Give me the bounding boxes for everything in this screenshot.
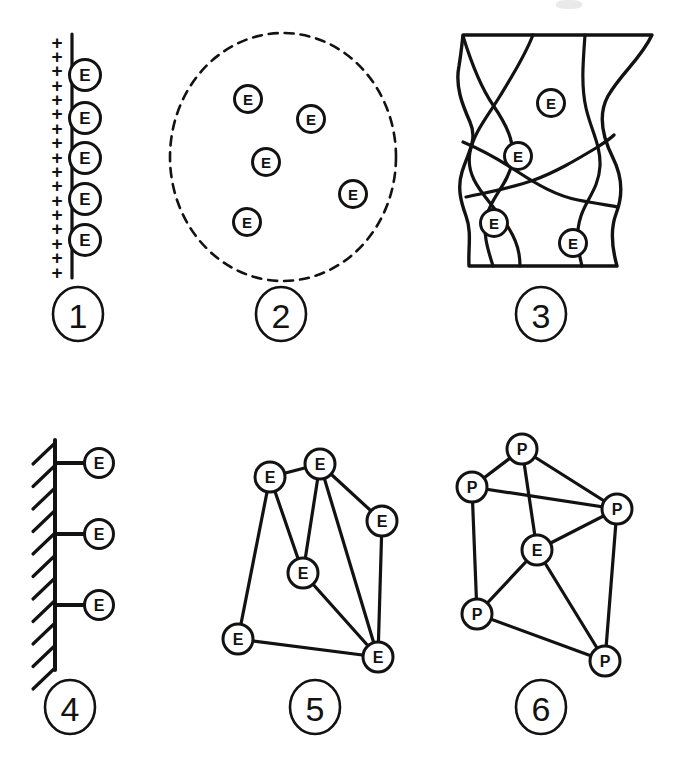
panel-3-grain-domains: EEEE 3	[430, 0, 676, 360]
electron-node: E	[70, 184, 101, 215]
node-label: P	[600, 653, 611, 670]
wall-hatch-stroke	[33, 466, 55, 487]
electron-node: E	[340, 181, 367, 208]
wall-hatch-stroke	[33, 578, 55, 599]
positive-charge-column: +++++++++++++++++	[51, 32, 62, 283]
tethered-electron-group: EEE	[85, 449, 114, 620]
electron-node: E	[70, 60, 101, 91]
node-label: P	[467, 479, 478, 496]
node-label: E	[79, 109, 90, 128]
panel-number-4: 4	[45, 680, 95, 734]
panel-number-3-text: 3	[532, 297, 551, 335]
proton-node: P	[462, 599, 492, 629]
node-label: E	[261, 154, 271, 171]
panel-number-2: 2	[256, 287, 306, 341]
node-label: E	[94, 526, 105, 543]
free-electron-group: EEEEE	[234, 86, 367, 236]
figure-root: +++++++++++++++++ EEEEE 1 EEEEE 2 EEEE	[0, 0, 676, 782]
network-edge	[477, 614, 605, 661]
electron-node: E	[560, 230, 587, 257]
wall-hatch-stroke	[33, 533, 55, 554]
node-label: E	[532, 542, 543, 559]
panel-2-free-electron-gas: EEEEE 2	[150, 0, 440, 360]
panel-number-6-text: 6	[532, 690, 551, 728]
electron-node: E	[70, 225, 101, 256]
node-label: E	[242, 214, 252, 231]
node-label: E	[298, 565, 309, 582]
panel-5-electron-network: EEEEEE 5	[190, 390, 420, 782]
network-edge	[378, 521, 382, 657]
electron-node: E	[85, 449, 114, 478]
node-label: E	[79, 231, 90, 250]
wall-hatch-stroke	[33, 511, 55, 532]
panel-6-proton-electron-network: PPPEPP 6	[430, 390, 676, 782]
electron-node: E	[255, 462, 285, 492]
network-edge	[238, 477, 270, 639]
panel-number-5: 5	[290, 680, 340, 734]
node-label: E	[568, 235, 578, 252]
electron-node: E	[363, 642, 393, 672]
electron-node: E	[522, 535, 552, 565]
proton-node: P	[507, 434, 537, 464]
network-edge	[320, 464, 378, 657]
node-label: E	[513, 148, 523, 165]
node-label: E	[79, 66, 90, 85]
network-edge	[522, 449, 617, 509]
node-label: E	[377, 513, 388, 530]
node-label: E	[373, 649, 384, 666]
proton-node: P	[602, 494, 632, 524]
positive-charge-plus: +	[51, 262, 62, 283]
node-label: E	[79, 149, 90, 168]
node-label: E	[489, 215, 499, 232]
electron-node: E	[298, 106, 325, 133]
network-edge	[472, 487, 477, 614]
electron-node: E	[505, 143, 532, 170]
proton-node: P	[457, 472, 487, 502]
wall-hatch-stroke	[33, 646, 55, 667]
panel-number-3: 3	[516, 287, 566, 341]
node-label: E	[94, 597, 105, 614]
electron-node: E	[234, 209, 261, 236]
wall-hatch-stroke	[33, 443, 55, 464]
network-edge	[605, 509, 617, 661]
electron-node: E	[305, 449, 335, 479]
node-label: E	[306, 111, 316, 128]
node-label: P	[612, 501, 623, 518]
wall-hatch-stroke	[33, 668, 55, 689]
network-edge	[537, 550, 605, 661]
network-edge	[472, 487, 617, 509]
electron-node: E	[367, 506, 397, 536]
node-label: P	[472, 606, 483, 623]
node-label: E	[315, 456, 326, 473]
electron-node: E	[481, 210, 508, 237]
node-label: P	[517, 441, 528, 458]
node-label: E	[348, 186, 358, 203]
node-label: E	[79, 190, 90, 209]
node-label: E	[233, 631, 244, 648]
wall-hatch-stroke	[33, 601, 55, 622]
node-label: E	[243, 91, 253, 108]
panel-number-4-text: 4	[61, 690, 80, 728]
electron-node: E	[70, 103, 101, 134]
electron-node: E	[223, 624, 253, 654]
panel-number-5-text: 5	[306, 690, 325, 728]
panel-number-2-text: 2	[272, 297, 291, 335]
electron-node: E	[253, 149, 280, 176]
node-label: E	[265, 469, 276, 486]
network-edge	[238, 639, 378, 657]
proton-node: P	[590, 646, 620, 676]
node-label: E	[94, 455, 105, 472]
electron-node: E	[235, 86, 262, 113]
dashed-boundary-circle	[170, 33, 396, 281]
bound-electron-group: EEEEE	[70, 60, 101, 256]
grain-electron-group: EEEE	[481, 90, 587, 257]
node-label: E	[546, 95, 556, 112]
wall-hatch-stroke	[33, 556, 55, 577]
panel-number-1: 1	[53, 287, 103, 341]
grain-boundary-curve-5	[466, 135, 614, 197]
wall-hatch-stroke	[33, 488, 55, 509]
electron-node: E	[288, 558, 318, 588]
network-edge	[303, 464, 320, 573]
wall-hatch-stroke	[33, 623, 55, 644]
electron-node: E	[85, 591, 114, 620]
